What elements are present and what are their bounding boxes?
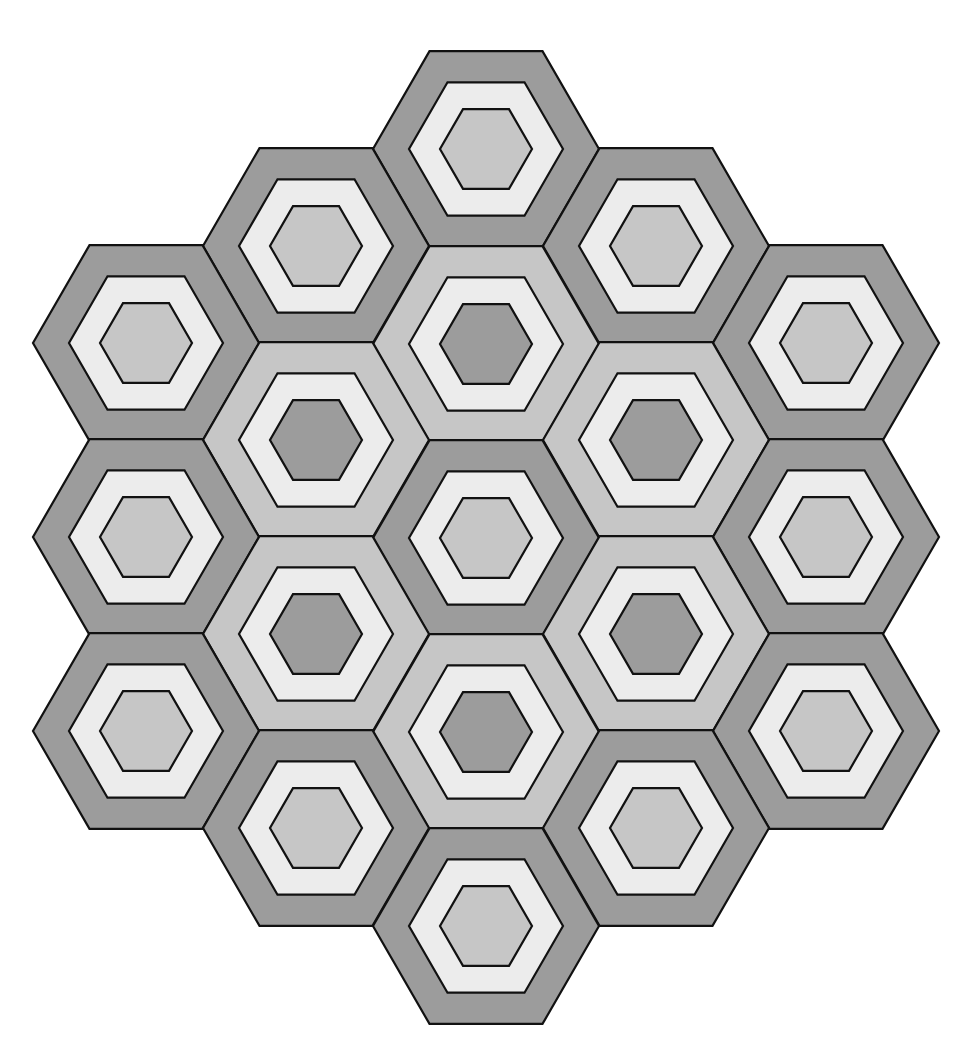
hexagon-tessellation-diagram (0, 0, 970, 1044)
hexagon-tiles (33, 51, 939, 1024)
